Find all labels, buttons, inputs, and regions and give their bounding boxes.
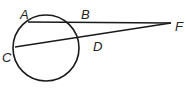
label-c: C (2, 50, 12, 65)
label-b: B (81, 7, 90, 22)
label-f: F (175, 19, 184, 34)
label-a: A (19, 7, 29, 22)
secant-diagram: A B C D F (0, 0, 186, 94)
label-d: D (93, 39, 102, 54)
secant-af (28, 22, 171, 23)
diagram-canvas: A B C D F (0, 0, 186, 94)
circle (13, 15, 79, 81)
